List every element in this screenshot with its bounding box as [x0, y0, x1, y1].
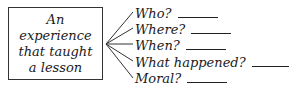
- question-label: Where?: [135, 22, 185, 37]
- question-when: When?: [135, 38, 226, 54]
- question-label: When?: [135, 38, 180, 53]
- question-who: Who?: [135, 6, 218, 22]
- question-label: Moral?: [135, 71, 181, 86]
- connector-line-what-happened: [106, 44, 133, 61]
- answer-blank: [252, 65, 289, 67]
- question-moral: Moral?: [135, 71, 227, 87]
- question-label: Who?: [135, 6, 172, 21]
- connector-line-who: [106, 12, 133, 44]
- answer-blank: [191, 32, 231, 34]
- question-what-happened: What happened?: [135, 55, 289, 71]
- answer-blank: [187, 81, 227, 83]
- connector-line-where: [106, 28, 133, 44]
- question-label: What happened?: [135, 55, 246, 70]
- answer-blank: [178, 16, 218, 18]
- answer-blank: [186, 48, 226, 50]
- question-where: Where?: [135, 22, 231, 38]
- connector-line-moral: [106, 44, 133, 78]
